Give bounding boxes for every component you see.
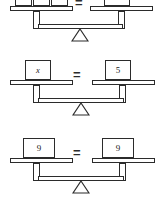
value-box-9-right: 9 [102, 138, 134, 158]
pan-tray-left [10, 6, 73, 11]
fulcrum-triangle [71, 28, 89, 46]
value-box-x: x [25, 60, 51, 80]
value-box-9-left: 9 [23, 138, 55, 158]
value-box-5: 5 [105, 60, 131, 80]
equals-sign-bottom: = [73, 146, 81, 159]
pan-tray-left [10, 158, 73, 163]
pan-tray-left [10, 80, 73, 85]
equals-sign-middle: = [73, 68, 81, 81]
equals-sign-top: = [75, 0, 83, 9]
fulcrum-triangle [72, 102, 90, 120]
fulcrum-triangle [72, 180, 90, 198]
